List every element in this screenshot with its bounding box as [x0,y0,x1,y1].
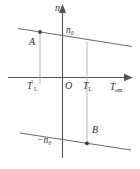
n0-subscript: 0 [71,30,74,36]
n0-label: n0 [66,26,74,36]
figure-container: n n0 A T′L O TL Tem −n0 B [0,0,140,169]
horizontal-axis-arrowhead [124,74,133,81]
tl-prime-subscript: L [34,86,37,92]
tl-subscript: L [88,86,91,92]
tem-subscript: em [115,87,122,93]
tem-axis-label: Tem [110,83,122,93]
tl-prime-label: T′L [27,82,38,92]
point-b-marker [85,141,89,145]
point-b-label: B [92,125,98,135]
n-axis-label: n [55,3,60,13]
origin-label: O [65,81,72,91]
negative-n0-label: −n0 [37,136,51,146]
prime-mark: ′ [31,79,33,88]
point-a-label: A [29,37,35,47]
negative-n0-subscript: 0 [48,140,51,146]
tl-label: TL [83,82,92,92]
point-a-marker [38,30,42,34]
